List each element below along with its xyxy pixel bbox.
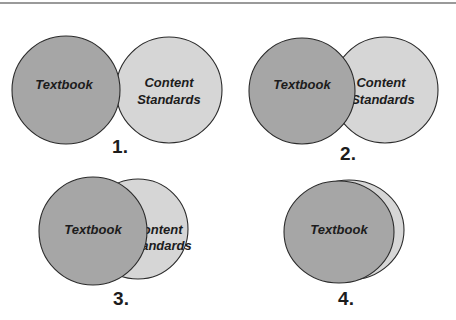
venn-diagram-3: Content Standards Textbook 3. bbox=[39, 177, 192, 309]
textbook-label: Textbook bbox=[35, 77, 93, 92]
textbook-label: Textbook bbox=[64, 222, 122, 237]
diagram-number: 3. bbox=[113, 288, 129, 309]
venn-diagram-4: Textbook 4. bbox=[284, 180, 404, 309]
diagram-number: 1. bbox=[112, 136, 128, 157]
content-standards-circle bbox=[116, 37, 222, 143]
textbook-label: Textbook bbox=[310, 222, 368, 237]
content-standards-label-line1: Content bbox=[144, 75, 194, 90]
diagram-number: 2. bbox=[340, 143, 356, 164]
content-standards-label-line2: Standards bbox=[351, 92, 415, 107]
venn-diagram-1: Content Standards Textbook 1. bbox=[12, 36, 222, 157]
content-standards-label-line2: Standards bbox=[137, 92, 201, 107]
venn-diagrams-figure: Content Standards Textbook 1. Content St… bbox=[0, 0, 456, 320]
textbook-label: Textbook bbox=[273, 77, 331, 92]
venn-diagram-2: Content Standards Textbook 2. bbox=[249, 37, 438, 164]
content-standards-label-line1: Content bbox=[356, 75, 406, 90]
diagram-number: 4. bbox=[338, 288, 354, 309]
